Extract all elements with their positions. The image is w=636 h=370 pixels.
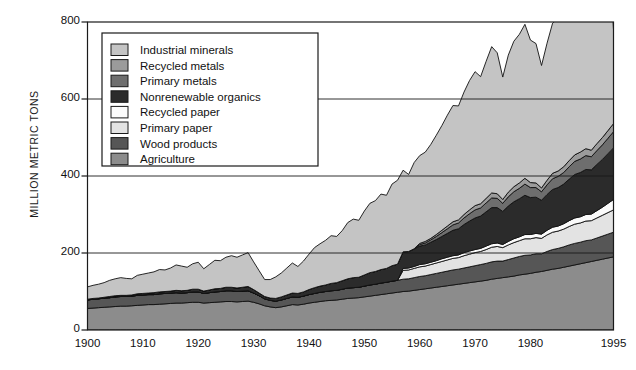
x-tick-label-1920: 1920 xyxy=(175,337,221,349)
x-tick-label-1940: 1940 xyxy=(286,337,332,349)
x-tick-label-1970: 1970 xyxy=(452,337,498,349)
plot-area xyxy=(0,0,636,370)
x-tick-label-1910: 1910 xyxy=(120,337,166,349)
x-tick-label-1960: 1960 xyxy=(397,337,443,349)
y-tick-label-800: 800 xyxy=(42,15,80,27)
y-tick-label-600: 600 xyxy=(42,92,80,104)
x-tick-label-1900: 1900 xyxy=(65,337,111,349)
y-tick-label-400: 400 xyxy=(42,169,80,181)
chart-figure: MILLION METRIC TONS 0200400600800 190019… xyxy=(0,0,636,370)
x-tick-label-1980: 1980 xyxy=(507,337,553,349)
x-tick-label-1995: 1995 xyxy=(591,337,636,349)
x-tick-label-1930: 1930 xyxy=(231,337,277,349)
y-axis-tick-labels: 0200400600800 xyxy=(38,0,80,370)
x-tick-label-1950: 1950 xyxy=(341,337,387,349)
y-tick-label-200: 200 xyxy=(42,246,80,258)
y-tick-label-0: 0 xyxy=(42,323,80,335)
